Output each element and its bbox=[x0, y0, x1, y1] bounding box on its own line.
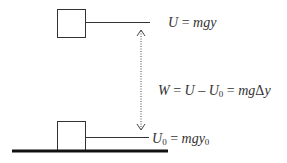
expression-mg: mg bbox=[238, 83, 255, 98]
expression-mgy: mgy bbox=[182, 131, 205, 146]
symbol-U0: U bbox=[209, 83, 219, 98]
potential-energy-diagram bbox=[0, 0, 287, 163]
symbol-y: y bbox=[264, 83, 270, 98]
work-equation-label: W = U – U0 = mgΔy bbox=[158, 84, 271, 98]
symbol-U: U bbox=[168, 15, 178, 30]
symbol-W: W bbox=[158, 83, 170, 98]
arrowhead-up-icon bbox=[137, 30, 145, 36]
expression-mgy: mgy bbox=[193, 15, 216, 30]
equals-sign: = bbox=[178, 15, 193, 30]
symbol-U: U bbox=[152, 131, 162, 146]
symbol-U: U bbox=[185, 83, 195, 98]
equals-sign: = bbox=[167, 131, 182, 146]
subscript-zero: 0 bbox=[205, 137, 210, 147]
bottom-block bbox=[58, 122, 86, 151]
minus-sign: – bbox=[195, 83, 209, 98]
top-block bbox=[58, 10, 86, 38]
equals-sign: = bbox=[170, 83, 185, 98]
top-energy-label: U = mgy bbox=[168, 16, 216, 30]
bottom-energy-label: U0 = mgy0 bbox=[152, 132, 209, 146]
equals-sign: = bbox=[223, 83, 238, 98]
